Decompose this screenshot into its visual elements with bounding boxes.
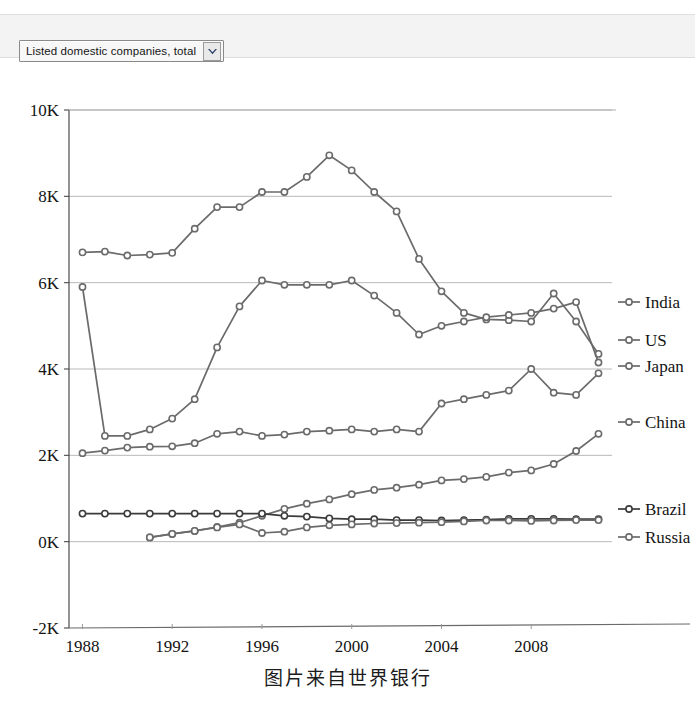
series-india: [79, 366, 601, 456]
y-tick-label: 0K: [38, 533, 60, 552]
legend-swatch-marker: [626, 299, 632, 305]
data-point: [394, 208, 400, 214]
data-point: [416, 520, 422, 526]
data-point: [349, 521, 355, 527]
data-point: [281, 432, 287, 438]
data-point: [394, 310, 400, 316]
legend-label: Brazil: [645, 500, 687, 519]
data-point: [394, 520, 400, 526]
data-point: [79, 450, 85, 456]
y-tick-label: -2K: [33, 619, 60, 638]
x-tick-label: 1988: [65, 637, 99, 656]
data-point: [236, 521, 242, 527]
data-point: [349, 491, 355, 497]
data-point: [506, 312, 512, 318]
data-point: [461, 318, 467, 324]
data-point: [147, 511, 153, 517]
data-point: [573, 448, 579, 454]
legend-label: China: [645, 413, 686, 432]
series-line: [83, 514, 599, 521]
data-point: [573, 392, 579, 398]
legend-label: India: [645, 293, 680, 312]
data-point: [416, 331, 422, 337]
data-point: [371, 429, 377, 435]
legend-item-brazil[interactable]: Brazil: [618, 500, 687, 519]
legend-swatch-marker: [626, 534, 632, 540]
legend-label: Japan: [645, 357, 684, 376]
data-point: [192, 511, 198, 517]
data-point: [236, 511, 242, 517]
data-point: [326, 522, 332, 528]
data-point: [214, 524, 220, 530]
data-point: [79, 249, 85, 255]
data-point: [573, 517, 579, 523]
data-point: [461, 476, 467, 482]
data-point: [124, 433, 130, 439]
data-point: [595, 431, 601, 437]
series-russia: [147, 517, 602, 541]
data-point: [102, 249, 108, 255]
data-point: [304, 429, 310, 435]
legend-item-india[interactable]: India: [618, 293, 680, 312]
data-point: [214, 511, 220, 517]
data-point: [438, 477, 444, 483]
data-point: [124, 511, 130, 517]
data-point: [416, 482, 422, 488]
y-axis-ticks: -2K0K2K4K6K8K10K: [30, 101, 69, 638]
data-point: [461, 310, 467, 316]
data-point: [304, 174, 310, 180]
data-point: [326, 496, 332, 502]
series-line: [83, 281, 599, 436]
x-tick-label: 2004: [424, 637, 459, 656]
data-point: [551, 517, 557, 523]
data-point: [551, 290, 557, 296]
data-point: [595, 517, 601, 523]
data-point: [169, 250, 175, 256]
data-point: [259, 511, 265, 517]
data-point: [304, 514, 310, 520]
data-point: [506, 470, 512, 476]
data-point: [326, 152, 332, 158]
data-point: [281, 513, 287, 519]
data-point: [326, 428, 332, 434]
data-point: [259, 530, 265, 536]
series-us: [79, 152, 601, 357]
x-tick-label: 2008: [514, 637, 548, 656]
selector-bar: Listed domestic companies, total: [0, 14, 695, 58]
chart-caption: 图片来自世界银行: [0, 663, 695, 690]
data-point: [551, 306, 557, 312]
x-tick-label: 1996: [245, 637, 279, 656]
data-point: [573, 318, 579, 324]
legend-item-japan[interactable]: Japan: [618, 357, 684, 376]
data-point: [506, 388, 512, 394]
data-point: [438, 400, 444, 406]
data-point: [326, 515, 332, 521]
data-point: [214, 204, 220, 210]
legend-item-russia[interactable]: Russia: [618, 528, 691, 547]
data-point: [236, 303, 242, 309]
y-tick-label: 8K: [38, 187, 60, 206]
legend-item-us[interactable]: US: [618, 331, 667, 350]
data-point: [349, 426, 355, 432]
series-lines: [79, 152, 601, 540]
data-point: [506, 517, 512, 523]
data-point: [528, 467, 534, 473]
x-axis-line: [69, 624, 690, 628]
series-japan: [79, 277, 601, 439]
data-point: [102, 511, 108, 517]
data-point: [528, 318, 534, 324]
legend-label: Russia: [645, 528, 691, 547]
data-point: [169, 511, 175, 517]
data-point: [79, 284, 85, 290]
data-point: [304, 282, 310, 288]
data-point: [595, 359, 601, 365]
data-point: [595, 370, 601, 376]
data-point: [281, 529, 287, 535]
data-point: [169, 443, 175, 449]
data-point: [259, 433, 265, 439]
legend-item-china[interactable]: China: [618, 413, 686, 432]
data-point: [551, 461, 557, 467]
data-point: [147, 444, 153, 450]
data-point: [102, 433, 108, 439]
data-point: [304, 524, 310, 530]
